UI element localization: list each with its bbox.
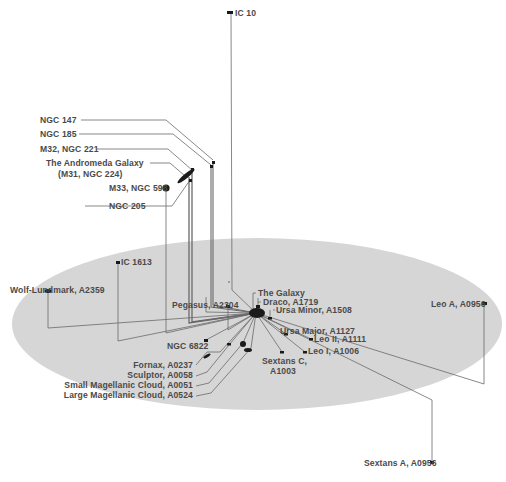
label-sculptor: Sculptor, A0058: [100, 371, 193, 380]
milky-way-marker: [249, 308, 265, 318]
label-sextans-c-line2: A1003: [262, 367, 304, 376]
sculptor-marker: [227, 343, 231, 346]
label-ngc205: NGC 205: [109, 202, 146, 211]
label-sextans-a: Sextans A, A0956: [364, 459, 437, 468]
label-ngc185: NGC 185: [40, 130, 77, 139]
lmc-marker: [244, 348, 252, 352]
ursa-minor-marker: [268, 317, 272, 320]
label-leo1: Leo I, A1006: [308, 347, 359, 356]
label-m32: M32, NGC 221: [40, 145, 99, 154]
label-leo2: Leo II, A1111: [314, 335, 366, 344]
label-wolf-lundmark: Wolf-Lundmark, A2359: [10, 286, 105, 295]
leo2-marker: [309, 338, 313, 341]
smc-marker: [240, 341, 246, 347]
andromeda-marker: [176, 167, 196, 185]
local-group-diagram: IC 10 NGC 147 NGC 185 M32, NGC 221 The A…: [0, 0, 506, 482]
ic1613-marker: [116, 261, 120, 264]
label-leo-a: Leo A, A0956: [431, 300, 486, 309]
draco-marker: [256, 305, 260, 308]
label-ic10: IC 10: [235, 9, 256, 18]
ngc185-marker: [210, 165, 213, 168]
label-smc: Small Magellanic Cloud, A0051: [30, 381, 193, 390]
label-ngc147: NGC 147: [40, 116, 77, 125]
leo1-marker: [303, 351, 307, 354]
diagram-graphics: [0, 0, 506, 482]
label-pegasus: Pegasus, A2304: [172, 301, 239, 310]
label-lmc: Large Magellanic Cloud, A0524: [30, 391, 193, 400]
ngc147-marker: [212, 161, 215, 164]
label-ngc6822: NGC 6822: [167, 342, 208, 351]
ic10-marker: [227, 11, 233, 14]
label-andromeda-line1: The Andromeda Galaxy: [46, 159, 144, 168]
label-fornax: Fornax, A0237: [100, 361, 193, 370]
label-ursa-minor: Ursa Minor, A1508: [276, 306, 352, 315]
sextans-c-marker: [280, 351, 284, 354]
label-sextans-c-line1: Sextans C,: [262, 357, 304, 366]
label-m33: M33, NGC 598: [109, 184, 168, 193]
ngc205-marker: [189, 179, 192, 182]
label-andromeda-line2: (M31, NGC 224): [58, 170, 122, 179]
label-ic1613: IC 1613: [121, 258, 152, 267]
